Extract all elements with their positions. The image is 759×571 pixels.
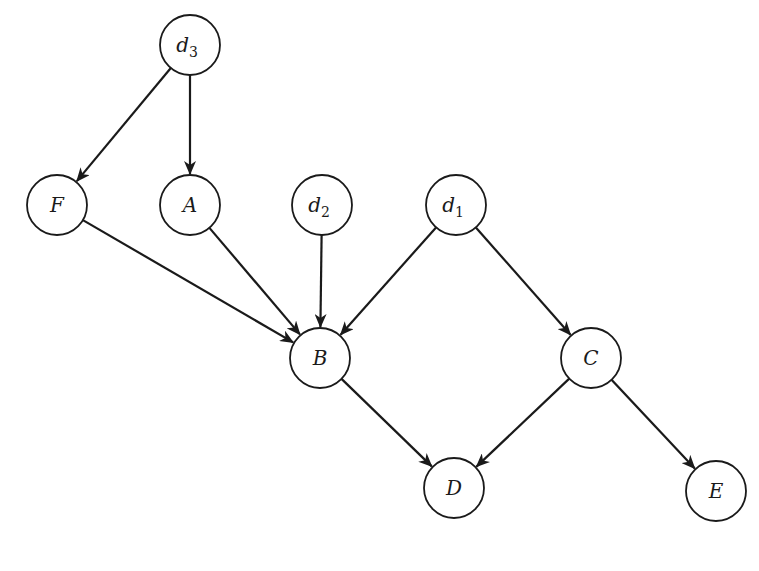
dag-diagram: d3FAd2d1BCDE bbox=[0, 0, 759, 571]
node-F: F bbox=[27, 175, 87, 235]
edge-A-to-B bbox=[209, 228, 300, 335]
node-label: A bbox=[181, 193, 197, 217]
node-label: D bbox=[445, 476, 462, 500]
node-subscript: 2 bbox=[321, 204, 330, 220]
edge-C-to-D bbox=[476, 379, 569, 467]
node-D: D bbox=[424, 458, 484, 518]
node-label: C bbox=[583, 346, 598, 370]
edge-d3-to-F bbox=[77, 68, 171, 181]
edges-group bbox=[77, 68, 695, 468]
node-subscript: 3 bbox=[189, 44, 198, 60]
nodes-group: d3FAd2d1BCDE bbox=[27, 15, 746, 521]
edge-d1-to-C bbox=[476, 227, 571, 334]
node-label: E bbox=[708, 479, 724, 503]
node-C: C bbox=[561, 328, 621, 388]
edge-d1-to-B bbox=[341, 227, 436, 334]
edge-B-to-D bbox=[342, 379, 432, 467]
edge-C-to-E bbox=[612, 380, 695, 469]
edge-F-to-B bbox=[83, 220, 293, 342]
node-d1: d1 bbox=[426, 175, 486, 235]
node-label: B bbox=[312, 346, 328, 370]
node-d2: d2 bbox=[292, 175, 352, 235]
edge-d2-to-B bbox=[320, 235, 321, 327]
node-d3: d3 bbox=[160, 15, 220, 75]
node-label: F bbox=[49, 193, 65, 217]
node-subscript: 1 bbox=[455, 204, 464, 220]
node-E: E bbox=[686, 461, 746, 521]
node-B: B bbox=[290, 328, 350, 388]
node-A: A bbox=[160, 175, 220, 235]
